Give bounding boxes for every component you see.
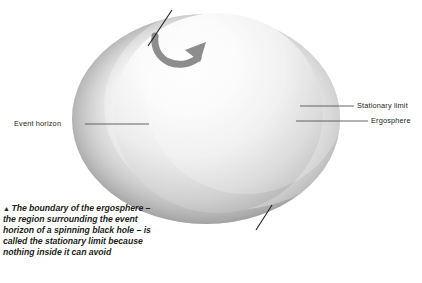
label-stationary-limit: Stationary limit [357,102,408,109]
label-event-horizon: Event horizon [14,120,61,127]
figure-caption: ▲The boundary of the ergosphere – the re… [3,203,155,258]
event-horizon-highlight [146,2,346,194]
caption-text: The boundary of the ergosphere – the reg… [3,203,151,257]
figure-canvas: Event horizon Stationary limit Ergospher… [0,0,422,283]
label-ergosphere: Ergosphere [371,117,411,124]
